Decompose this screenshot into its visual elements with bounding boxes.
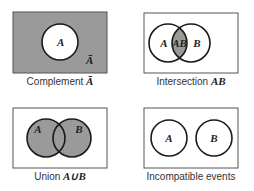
intersection-circle-a-label: A bbox=[159, 37, 167, 49]
intersection-universe-box bbox=[144, 13, 238, 73]
panel-complement: A Ā Complement Ā bbox=[13, 12, 107, 87]
incompatible-circle-b-label: B bbox=[209, 132, 217, 144]
incompatible-caption: Incompatible events bbox=[147, 171, 236, 182]
complement-circle-a-label: A bbox=[56, 36, 64, 48]
venn-diagram-figure: A Ā Complement Ā A AB B Intersection AB … bbox=[0, 0, 254, 191]
complement-caption: Complement Ā bbox=[27, 75, 94, 87]
intersection-circle-b-label: B bbox=[192, 37, 200, 49]
intersection-caption: Intersection AB bbox=[156, 75, 225, 87]
union-circle-a-label: A bbox=[33, 123, 41, 135]
panel-intersection: A AB B Intersection AB bbox=[144, 13, 238, 87]
incompatible-circle-a-label: A bbox=[164, 132, 172, 144]
complement-outside-label: Ā bbox=[85, 54, 93, 66]
panel-incompatible: A B Incompatible events bbox=[144, 108, 238, 182]
incompatible-universe-box bbox=[144, 108, 238, 168]
union-caption: Union A∪B bbox=[34, 170, 86, 182]
panel-union: A B Union A∪B bbox=[13, 108, 107, 182]
intersection-overlap-label: AB bbox=[171, 37, 187, 49]
union-circle-b-label: B bbox=[74, 123, 82, 135]
